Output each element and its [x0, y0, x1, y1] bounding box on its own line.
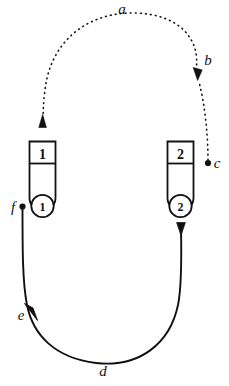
container-2-top-digit: 2 [177, 147, 184, 162]
label-b: b [204, 52, 212, 68]
dotted-segment-c-to-b [199, 82, 208, 160]
diagram-svg: 1 1 2 2 a b c d e f [0, 0, 229, 386]
point-c-dot [205, 160, 211, 166]
label-e: e [18, 307, 25, 323]
label-c: c [214, 155, 221, 171]
arrowhead-into-container-1 [39, 115, 47, 128]
solid-loop-path-group [19, 203, 185, 363]
container-1[interactable]: 1 1 [30, 142, 56, 218]
dotted-arc-b-to-container1 [43, 13, 197, 124]
solid-curve-f-to-container2 [23, 208, 182, 364]
container-2[interactable]: 2 2 [168, 142, 194, 218]
point-f-dot [19, 203, 25, 209]
figure-canvas: 1 1 2 2 a b c d e f [0, 0, 229, 386]
container-1-circle-digit: 1 [40, 200, 46, 214]
label-d: d [99, 363, 107, 379]
container-2-circle-digit: 2 [178, 200, 184, 214]
label-a: a [118, 1, 126, 17]
arrowhead-into-container-2 [177, 223, 186, 236]
arrowhead-b [193, 68, 202, 81]
container-1-top-digit: 1 [39, 147, 46, 162]
label-f: f [11, 199, 17, 215]
